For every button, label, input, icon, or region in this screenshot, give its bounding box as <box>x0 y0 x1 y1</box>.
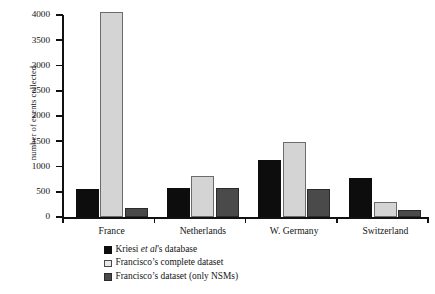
legend-label: Francisco’s complete dataset <box>116 256 224 269</box>
plot-area: 05001000150020002500300035004000 FranceN… <box>62 15 427 217</box>
legend-swatch-icon <box>104 273 112 281</box>
x-tick-mark <box>245 217 247 223</box>
y-tick-label: 3000 <box>0 61 50 70</box>
y-tick-label: 2000 <box>0 111 50 120</box>
bar <box>307 189 330 217</box>
y-tick-mark <box>56 166 63 168</box>
bar <box>191 176 214 217</box>
y-tick-mark <box>56 115 63 117</box>
y-tick-mark <box>56 65 63 67</box>
bar <box>374 202 397 217</box>
legend-label: Kriesi et al's database <box>116 243 198 256</box>
legend-label: Francisco’s dataset (only NSMs) <box>116 270 239 283</box>
x-tick-mark <box>427 217 429 223</box>
bar <box>100 12 123 217</box>
bar <box>258 160 281 217</box>
y-tick-label: 4000 <box>0 10 50 19</box>
x-axis-label-switzerland: Switzerland <box>325 225 435 236</box>
y-tick-label: 1000 <box>0 162 50 171</box>
x-tick-mark <box>62 217 64 223</box>
y-tick-mark <box>56 191 63 193</box>
legend-swatch-icon <box>104 246 112 254</box>
x-tick-mark <box>154 217 156 223</box>
y-tick-label: 500 <box>0 187 50 196</box>
chart-legend: Kriesi et al's databaseFrancisco’s compl… <box>104 243 238 283</box>
bar <box>216 188 239 217</box>
legend-item: Kriesi et al's database <box>104 243 238 256</box>
bar <box>349 178 372 217</box>
y-tick-label: 3500 <box>0 36 50 45</box>
legend-item: Francisco’s dataset (only NSMs) <box>104 270 238 283</box>
y-tick-mark <box>56 39 63 41</box>
bar <box>167 188 190 217</box>
y-tick-label: 1500 <box>0 137 50 146</box>
y-tick-mark <box>56 140 63 142</box>
y-tick-mark <box>56 90 63 92</box>
x-tick-mark <box>336 217 338 223</box>
bar <box>125 208 148 217</box>
bar <box>283 142 306 217</box>
bar <box>398 210 421 217</box>
y-tick-label: 2500 <box>0 86 50 95</box>
y-tick-label: 0 <box>0 212 50 221</box>
y-tick-mark <box>56 14 63 16</box>
bar-chart-figure: number of events collected 0500100015002… <box>0 0 435 294</box>
legend-item: Francisco’s complete dataset <box>104 256 238 269</box>
legend-swatch-icon <box>104 260 112 268</box>
bar <box>76 189 99 217</box>
